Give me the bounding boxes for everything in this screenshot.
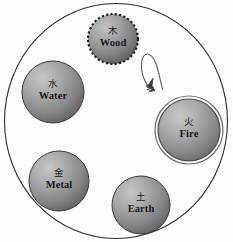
node-earth[interactable] [112,176,170,234]
water-sphere [22,61,84,123]
node-metal[interactable] [29,151,89,211]
wood-to-fire-arrow [141,54,162,92]
wuxing-diagram: 木 Wood 火 Fire 土 Earth 金 Metal 水 Water [0,0,233,242]
node-wood[interactable] [88,14,138,64]
metal-sphere [29,151,89,211]
node-fire[interactable] [155,96,223,164]
wood-sphere [88,14,138,64]
node-water[interactable] [22,61,84,123]
earth-sphere [112,176,170,234]
diagram-canvas [0,0,233,242]
fire-sphere [158,99,220,161]
